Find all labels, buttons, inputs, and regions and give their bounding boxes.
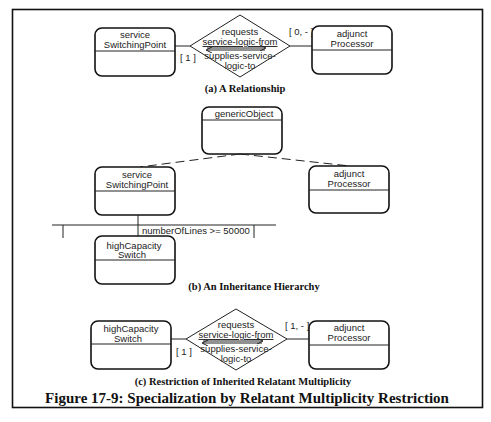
figure-canvas: service SwitchingPoint requests service-… [0,0,491,422]
panel-b-caption: (b) An Inheritance Hierarchy [188,281,320,293]
multiplicity-right: [ 0, - ] [289,26,313,37]
relationship-inverse-line2: logic-to [221,353,252,364]
multiplicity-right: [ 1, - ] [285,320,309,331]
panel-a-caption: (a) A Relationship [205,83,286,95]
class-name-line2: SwitchingPoint [106,179,169,190]
discriminator-label: numberOfLines >= 50000 [142,225,250,236]
relationship-forward-line2: service-logic-from [199,329,274,340]
relationship-inverse-line2: logic-to [225,60,256,71]
relationship-forward-line2: service-logic-from [203,36,278,47]
class-box-high-capacity-switch: highCapacity Switch [91,321,171,369]
class-box-adjunct-processor: adjunct Processor [312,26,392,74]
class-box-high-capacity-switch: highCapacity Switch [95,236,175,284]
figure-title: Figure 17-9: Specialization by Relatant … [45,390,450,406]
inheritance-line-right [240,154,350,166]
class-name-line2: Processor [331,38,374,49]
class-name-line2: Switch [118,249,146,260]
class-name-line2: SwitchingPoint [104,39,167,50]
class-name-line2: Processor [328,178,371,189]
multiplicity-left: [ 1 ] [180,52,196,63]
class-name-line2: Switch [114,333,142,344]
multiplicity-left: [ 1 ] [176,346,192,357]
class-name-line1: genericObject [215,108,274,119]
class-box-service-switching-point: service SwitchingPoint [95,28,175,76]
class-name-line2: Processor [328,332,371,343]
panel-a: service SwitchingPoint requests service-… [95,15,392,95]
class-box-adjunct-processor: adjunct Processor [309,166,389,213]
panel-c: highCapacity Switch requests service-log… [91,309,389,388]
panel-c-caption: (c) Restriction of Inherited Relatant Mu… [135,376,352,388]
class-box-adjunct-processor: adjunct Processor [309,321,389,369]
relationship-diamond: requests service-logic-from supplies-ser… [190,15,290,77]
class-box-generic-object: genericObject [202,107,282,154]
class-box-service-switching-point: service SwitchingPoint [95,167,175,215]
inheritance-line-left [140,154,240,167]
panel-b: genericObject service SwitchingPoint adj… [52,107,389,293]
relationship-diamond: requests service-logic-from supplies-ser… [186,309,287,370]
discriminator-bar: numberOfLines >= 50000 [52,215,276,238]
